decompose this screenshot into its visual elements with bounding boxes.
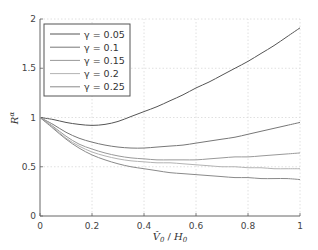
x-tick-label: 0: [37, 221, 43, 231]
x-tick-label: 0.2: [85, 221, 99, 231]
series-line-4: [40, 118, 300, 180]
legend-label: γ = 0.05: [84, 29, 125, 40]
y-tick-label: 0: [30, 211, 36, 221]
x-tick-label: 1: [297, 221, 303, 231]
legend-label: γ = 0.2: [84, 68, 119, 79]
x-tick-label: 0.4: [137, 221, 152, 231]
series-line-3: [40, 118, 300, 169]
legend-label: γ = 0.15: [84, 55, 125, 66]
x-tick-label: 0.6: [189, 221, 204, 231]
y-axis-label: Rα: [8, 112, 20, 126]
x-axis-label: V̂0 / H0: [153, 231, 188, 244]
y-tick-label: 1: [30, 113, 36, 123]
y-tick-label: 0.5: [22, 162, 36, 172]
line-chart: 00.20.40.60.8100.511.52 γ = 0.05γ = 0.1γ…: [0, 0, 318, 250]
x-tick-label: 0.8: [241, 221, 256, 231]
legend-label: γ = 0.25: [84, 81, 125, 92]
y-tick-label: 1.5: [22, 63, 36, 73]
y-tick-label: 2: [30, 14, 36, 24]
legend-label: γ = 0.1: [84, 42, 119, 53]
legend: γ = 0.05γ = 0.1γ = 0.15γ = 0.2γ = 0.25: [44, 24, 130, 96]
